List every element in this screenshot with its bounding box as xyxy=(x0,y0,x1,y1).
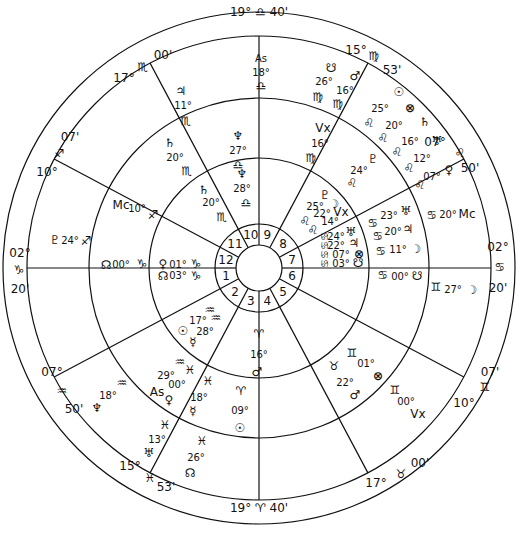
planet-position-label: ♓ xyxy=(160,420,171,431)
planet-position-label: 12° xyxy=(413,153,431,164)
cusp-degree-label: 53' xyxy=(157,482,176,493)
planet-position-label: ☋ xyxy=(412,271,423,282)
cusp-line xyxy=(298,289,464,377)
hub-circle xyxy=(236,245,282,291)
planet-position-label: ♑ xyxy=(137,259,148,270)
planet-position-label: ♊ xyxy=(390,385,401,396)
planet-position-label: ♒ xyxy=(117,378,128,389)
planet-position-label: 16° xyxy=(311,138,329,149)
planet-position-label: 28° xyxy=(233,183,251,194)
planet-position-label: ♍ xyxy=(333,99,344,110)
planet-position-label: 20° xyxy=(166,152,184,163)
planet-position-label: 17° xyxy=(189,315,207,326)
planet-position-label: 26° xyxy=(187,452,205,463)
cusp-degree-label: 50' xyxy=(461,163,480,174)
planet-position-label: As xyxy=(255,53,267,64)
cusp-degree-label: 07' xyxy=(481,367,500,378)
planet-position-label: ♇ xyxy=(50,235,61,246)
planet-position-label: ♏ xyxy=(182,166,193,177)
cusp-degree-label: 10° xyxy=(36,167,57,178)
planet-position-label: ☽ xyxy=(467,285,478,296)
cusp-degree-label: ♉ xyxy=(396,469,407,480)
planet-position-label: ♆ xyxy=(92,403,103,414)
planet-position-label: Mc xyxy=(113,200,130,211)
planet-position-label: ♋ xyxy=(368,218,379,229)
planet-position-label: 20° xyxy=(439,209,457,220)
house-number-11: 11 xyxy=(227,238,242,249)
planet-position-label: 18° xyxy=(99,390,117,401)
cusp-degree-label: 07° xyxy=(41,367,62,378)
cusp-degree-label: 17° xyxy=(365,478,386,489)
planet-position-label: 27° xyxy=(229,145,247,156)
planet-position-label: 11° xyxy=(174,100,192,111)
cusp-degree-label: 15° xyxy=(119,461,140,472)
cusp-degree-label: 02° xyxy=(9,248,30,259)
planet-position-label: 24° xyxy=(350,165,368,176)
planet-position-label: ♌ xyxy=(404,163,415,174)
planet-position-label: ♄ xyxy=(199,185,210,196)
cusp-degree-label: ♍ xyxy=(369,51,380,62)
cusp-degree-label: 19° ♎ 40' xyxy=(230,7,288,18)
planet-position-label: 00° xyxy=(397,396,415,407)
planet-position-label: ☉ xyxy=(235,423,246,434)
planet-position-label: ♋♋♋♋ xyxy=(319,232,330,268)
planet-position-label: ♆ xyxy=(237,169,248,180)
planet-position-label: 00° xyxy=(168,379,186,390)
planet-position-label: ♉ xyxy=(329,361,340,372)
planet-position-label: 07° xyxy=(423,171,441,182)
planet-position-label: 26° xyxy=(315,76,333,87)
planet-position-label: ☿ xyxy=(189,406,196,417)
house-number-9: 9 xyxy=(263,230,271,241)
house-divider xyxy=(270,229,280,248)
cusp-degree-label: 17° xyxy=(113,73,134,84)
cusp-degree-label: ♑ xyxy=(14,265,25,276)
planet-position-label: ♏ xyxy=(181,116,192,127)
planet-position-label: 03° xyxy=(332,258,350,269)
planet-position-label: ♎ xyxy=(241,198,252,209)
planet-position-label: 20° xyxy=(385,120,403,131)
planet-position-label: ☊ xyxy=(185,468,196,479)
planet-position-label: ♃ xyxy=(403,224,414,235)
cusp-degree-label: ♌ xyxy=(455,148,466,159)
cusp-degree-label: ♐ xyxy=(54,149,65,160)
house-number-2: 2 xyxy=(231,287,239,298)
house-number-6: 6 xyxy=(288,271,296,282)
planet-position-label: As xyxy=(150,387,164,398)
planet-position-label: ♈ xyxy=(236,386,247,397)
planet-position-label: ♇ xyxy=(368,154,379,165)
planet-position-label: ⊗ xyxy=(373,371,383,382)
planet-position-label: 09° xyxy=(231,405,249,416)
house-number-4: 4 xyxy=(263,295,271,306)
planet-position-label: ♐ xyxy=(148,210,159,221)
planet-position-label: ♃ xyxy=(176,86,187,97)
planet-position-label: ♅ xyxy=(432,136,443,147)
planet-position-label: 23° xyxy=(380,210,398,221)
cusp-degree-label: 50' xyxy=(65,404,84,415)
planet-position-label: ♓ xyxy=(185,365,196,376)
planet-position-label: ♒ xyxy=(211,313,222,324)
planet-position-label: ♊ xyxy=(347,348,358,359)
planet-position-label: 13° xyxy=(148,434,166,445)
planet-position-label: ☿ xyxy=(189,337,196,348)
planet-position-label: ♅ xyxy=(401,206,412,217)
planet-position-label: ♓ xyxy=(203,376,214,387)
planet-position-label: ♌ xyxy=(364,118,375,129)
cusp-degree-label: 10° xyxy=(453,398,474,409)
cusp-degree-label: 02° xyxy=(487,242,508,253)
planet-position-label: 27° xyxy=(444,284,462,295)
planet-position-label: ♍ xyxy=(313,92,324,103)
planet-position-label: ♀ xyxy=(165,395,174,406)
cusp-line xyxy=(150,63,238,229)
planet-position-label: ♄ xyxy=(420,117,431,128)
cusp-degree-label: ♋ xyxy=(495,262,506,273)
house-divider xyxy=(270,288,280,307)
cusp-degree-label: ♏ xyxy=(138,62,149,73)
planet-position-label: ♋ xyxy=(427,210,438,221)
planet-position-label: 18° xyxy=(252,67,270,78)
planet-position-label: ☊ xyxy=(101,260,112,271)
planet-position-label: ♑ xyxy=(191,271,202,282)
planet-position-label: ♂ xyxy=(350,390,361,401)
planet-position-label: 16° xyxy=(250,349,268,360)
planet-position-label: ♄ xyxy=(165,138,176,149)
planet-position-label: 14° xyxy=(321,216,339,227)
